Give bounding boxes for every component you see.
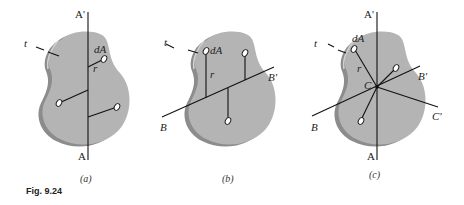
label-c: C [364,79,372,91]
label-b: B [311,121,318,133]
label-da: dA [94,43,107,55]
caption-b: (b) [222,173,234,185]
label-t: t [314,37,318,49]
label-r: r [93,62,98,74]
caption-c: (c) [369,169,381,181]
caption-a: (a) [80,173,92,185]
plate-face [42,32,129,145]
label-da: dA [210,44,223,56]
panel-a [38,32,129,147]
label-t: t [24,37,28,49]
figure-caption: Fig. 9.24 [26,186,62,196]
label-t: t [164,36,168,48]
label-a: A [367,150,375,162]
label-a-prime: A' [364,8,374,20]
label-b: B [160,121,167,133]
figure-canvas: A' A t dA r (a) B' B t dA r (b) [0,0,464,205]
centroid-point [375,85,379,89]
label-da: dA [352,32,365,44]
label-a-prime: A' [75,8,85,20]
label-r: r [210,68,215,80]
thickness-arrow-left [36,47,44,50]
panel-b [184,32,275,147]
label-b-prime: B' [418,70,428,82]
panel-c [334,32,425,147]
label-a: A [78,150,86,162]
label-r: r [357,62,362,74]
label-b-prime: B' [268,71,278,83]
label-c-prime: C' [432,110,442,122]
